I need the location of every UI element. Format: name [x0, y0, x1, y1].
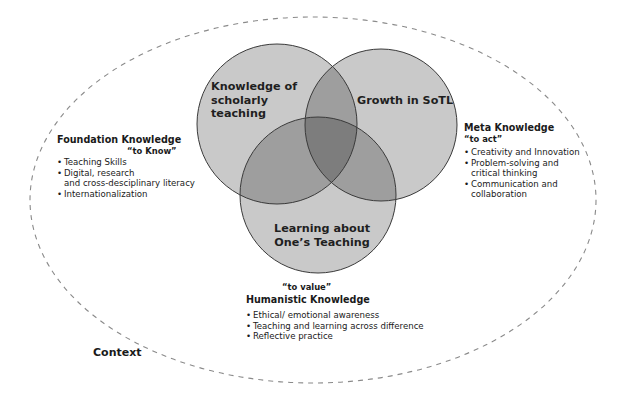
list-item: Communication and collaboration: [464, 179, 580, 200]
label-scholarly-teaching: Knowledge of scholarly teaching: [211, 80, 297, 121]
list-item: Ethical/ emotional awareness: [246, 310, 424, 321]
label-line: One’s Teaching: [274, 236, 370, 250]
label-line: teaching: [211, 107, 297, 121]
foundation-title: Foundation Knowledge: [57, 134, 195, 146]
humanistic-knowledge-block: “to value” Humanistic Knowledge Ethical/…: [246, 282, 424, 342]
venn-diagram-graphic: [0, 0, 621, 404]
meta-list: Creativity and Innovation Problem-solvin…: [464, 147, 580, 200]
list-item: Internationalization: [57, 189, 195, 200]
list-item: Creativity and Innovation: [464, 147, 580, 158]
list-item: Problem-solving and critical thinking: [464, 158, 580, 179]
meta-title: Meta Knowledge: [464, 122, 580, 134]
list-item: Teaching Skills: [57, 157, 195, 168]
knowledge-diagram: Knowledge of scholarly teaching Growth i…: [0, 0, 621, 404]
label-line: scholarly: [211, 94, 297, 108]
label-line: Knowledge of: [211, 80, 297, 94]
humanistic-title: Humanistic Knowledge: [246, 294, 424, 306]
list-item: Teaching and learning across difference: [246, 321, 424, 332]
humanistic-quote: “to value”: [246, 282, 424, 293]
context-label: Context: [93, 346, 142, 359]
meta-quote: “to act”: [464, 134, 580, 145]
list-item: Digital, research and cross-desciplinary…: [57, 168, 195, 189]
list-item: Reflective practice: [246, 331, 424, 342]
foundation-knowledge-block: Foundation Knowledge “to Know” Teaching …: [57, 134, 195, 199]
foundation-quote: “to Know”: [57, 146, 195, 157]
label-line: Growth in SoTL: [357, 94, 453, 108]
label-line: Learning about: [274, 222, 370, 236]
label-learning-about-teaching: Learning about One’s Teaching: [274, 222, 370, 249]
meta-knowledge-block: Meta Knowledge “to act” Creativity and I…: [464, 122, 580, 200]
foundation-list: Teaching Skills Digital, research and cr…: [57, 157, 195, 199]
label-growth-in-sotl: Growth in SoTL: [357, 94, 453, 108]
humanistic-list: Ethical/ emotional awareness Teaching an…: [246, 310, 424, 342]
